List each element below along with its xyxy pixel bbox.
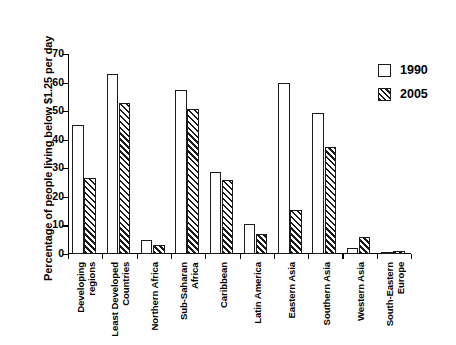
x-tick-mark [240,254,241,259]
bar-group [171,54,205,254]
bar-2005 [256,234,268,254]
legend-label: 1990 [400,63,428,77]
y-tick-label: 40 [52,133,64,145]
x-category-label: Developing regions [76,262,97,313]
bar-group [274,54,308,254]
x-tick-mark [102,254,103,259]
y-tick-label: 60 [52,76,64,88]
bar-1990 [210,172,222,254]
bar-1990 [278,83,290,254]
x-category-label: Southern Asia [322,262,333,325]
bar-group [342,54,376,254]
bar-2005 [290,210,302,254]
y-tick-label: 0 [58,247,64,259]
x-category-label: Northern Africa [150,262,161,331]
y-tick-label: 70 [52,47,64,59]
x-category-label: Eastern Asia [287,262,298,319]
bar-group [308,54,342,254]
bar-group [205,54,239,254]
x-category-label: Least Developed Countries [110,262,131,337]
legend-swatch-hollow [378,64,391,77]
x-category-label: Latin America [253,262,264,324]
x-category-label: Caribbean [219,262,230,308]
bar-group [102,54,136,254]
x-tick-mark [377,254,378,259]
y-tick-label: 20 [52,190,64,202]
bar-2005 [325,147,337,254]
bar-group [68,54,102,254]
bar-1990 [72,125,84,254]
bar-1990 [107,74,119,254]
x-tick-mark [274,254,275,259]
bar-1990 [244,224,256,254]
legend: 19902005 [378,58,428,106]
x-tick-mark [171,254,172,259]
bar-1990 [381,252,393,254]
legend-item-2005: 2005 [378,82,428,106]
legend-label: 2005 [400,87,428,101]
bar-group [240,54,274,254]
bar-2005 [187,109,199,254]
legend-item-1990: 1990 [378,58,428,82]
y-tick-label: 10 [52,218,64,230]
bar-chart: Percentage of people living below $1.25 … [0,0,456,345]
x-tick-mark [68,254,69,259]
bar-2005 [359,237,371,254]
bar-2005 [119,103,131,254]
legend-swatch-hatched [378,88,391,101]
bar-2005 [84,178,96,254]
y-tick-label: 50 [52,104,64,116]
bar-1990 [347,248,359,254]
x-tick-mark [411,254,412,259]
x-category-label: Sub-Saharan Africa [179,262,200,320]
x-tick-mark [308,254,309,259]
y-tick-label: 30 [52,161,64,173]
x-category-label: South-Eastern Europe [385,262,406,326]
x-tick-mark [137,254,138,259]
x-category-label: Western Asia [356,262,367,321]
bar-1990 [141,240,153,254]
bar-1990 [312,113,324,254]
x-tick-mark [205,254,206,259]
bar-2005 [153,245,165,254]
bar-2005 [222,180,234,254]
bar-1990 [175,90,187,254]
x-tick-mark [342,254,343,259]
bar-group [137,54,171,254]
bar-2005 [393,251,405,254]
plot-area: 010203040506070 [68,54,411,254]
